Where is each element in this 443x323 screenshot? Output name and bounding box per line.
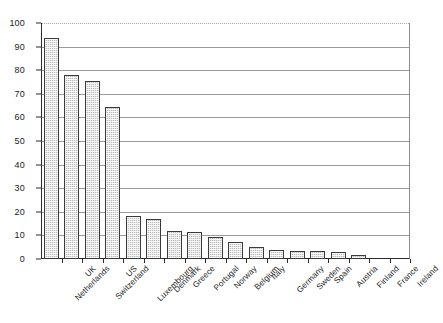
bar-chart: 0102030405060708090100 NetherlandsUKSwit… [0, 0, 443, 323]
bar[interactable] [126, 216, 141, 259]
bar[interactable] [269, 250, 284, 259]
x-tick-mark [349, 259, 350, 263]
bar-slot [185, 23, 206, 259]
bar-slot [246, 23, 267, 259]
bar-slot [144, 23, 165, 259]
bar-slot [164, 23, 185, 259]
y-tick-label: 80 [15, 65, 25, 75]
y-tick-label: 40 [15, 160, 25, 170]
bar-slot [308, 23, 329, 259]
x-tick-label: Ireland [416, 264, 441, 289]
bar-slot [369, 23, 390, 259]
x-tick-mark [62, 259, 63, 263]
x-tick-mark [328, 259, 329, 263]
y-tick-label: 0 [20, 254, 25, 264]
y-tick-label: 90 [15, 42, 25, 52]
y-tick-label: 100 [9, 18, 25, 28]
y-tick-label: 50 [15, 136, 25, 146]
bar-slot [328, 23, 349, 259]
bar[interactable] [167, 231, 182, 259]
x-tick-mark [267, 259, 268, 263]
x-tick-mark [205, 259, 206, 263]
bar-slot [82, 23, 103, 259]
x-axis-labels: NetherlandsUKSwitzerlandUSLuxembourgDenm… [41, 264, 410, 323]
bar[interactable] [310, 251, 325, 259]
bar-slot [349, 23, 370, 259]
x-tick-mark [226, 259, 227, 263]
x-tick-label: Austria [355, 264, 380, 289]
x-tick-mark [246, 259, 247, 263]
y-tick-label: 30 [15, 183, 25, 193]
bar-slot [103, 23, 124, 259]
x-tick-mark [82, 259, 83, 263]
x-tick-mark [287, 259, 288, 263]
bar[interactable] [64, 75, 79, 259]
bar-slot [287, 23, 308, 259]
x-tick-label: Finland [375, 264, 401, 290]
bar[interactable] [187, 232, 202, 259]
x-tick-mark [390, 259, 391, 263]
bar-slot [390, 23, 411, 259]
y-tick-label: 10 [15, 230, 25, 240]
y-tick-label: 60 [15, 112, 25, 122]
x-tick-mark [103, 259, 104, 263]
bar[interactable] [44, 38, 59, 259]
x-tick-mark [308, 259, 309, 263]
bar[interactable] [85, 81, 100, 259]
x-tick-mark [185, 259, 186, 263]
bar[interactable] [290, 251, 305, 259]
bar-slot [226, 23, 247, 259]
bar[interactable] [331, 252, 346, 259]
bar[interactable] [228, 242, 243, 259]
y-tick-label: 70 [15, 89, 25, 99]
x-tick-mark [123, 259, 124, 263]
x-tick-mark [164, 259, 165, 263]
bar[interactable] [208, 237, 223, 259]
bar-slot [62, 23, 83, 259]
x-tick-mark [410, 259, 411, 263]
bar[interactable] [105, 107, 120, 259]
y-axis: 0102030405060708090100 [0, 23, 33, 259]
y-tick-label: 20 [15, 207, 25, 217]
bar-slot [41, 23, 62, 259]
bars-layer [41, 23, 410, 259]
bar-slot [205, 23, 226, 259]
x-tick-mark [144, 259, 145, 263]
bar-slot [267, 23, 288, 259]
bar[interactable] [249, 247, 264, 259]
bar[interactable] [146, 219, 161, 259]
bar-slot [123, 23, 144, 259]
x-tick-mark [369, 259, 370, 263]
